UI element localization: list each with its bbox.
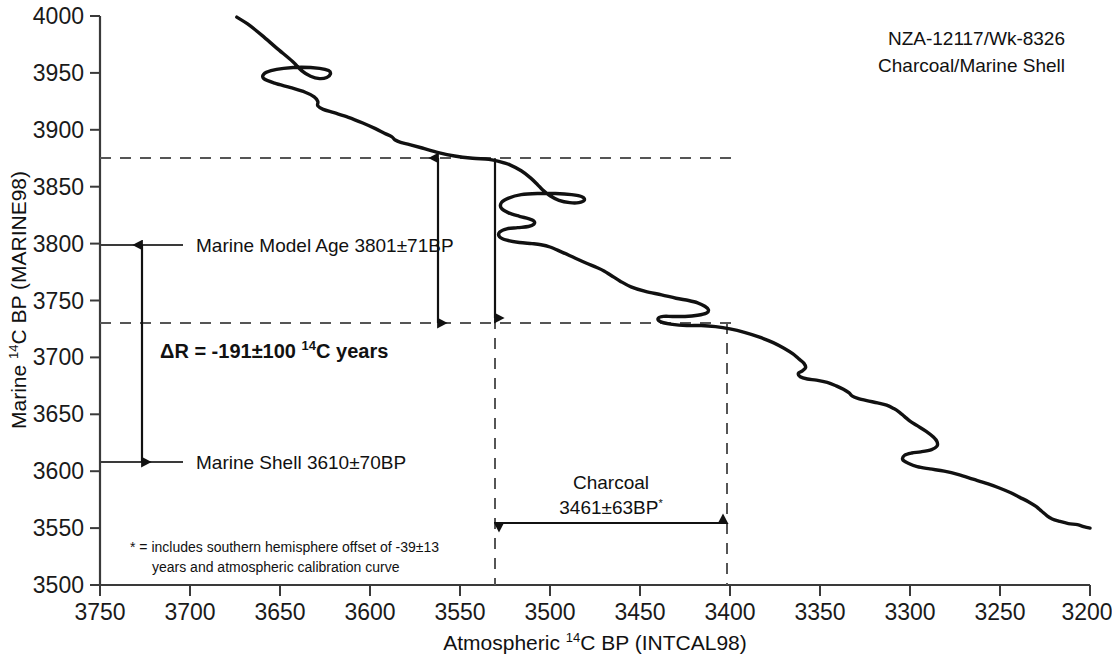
x-tick-3300: 3300 <box>884 599 935 625</box>
x-tick-3250: 3250 <box>974 599 1025 625</box>
x-tick-3500: 3500 <box>524 599 575 625</box>
reference-lines <box>100 158 733 585</box>
y-tick-4000: 4000 <box>33 3 84 29</box>
charcoal-value: 3461±63BP* <box>559 497 663 518</box>
y-tick-3800: 3800 <box>33 231 84 257</box>
footnote-line-1: * = includes southern hemisphere offset … <box>130 539 439 555</box>
y-tick-3950: 3950 <box>33 60 84 86</box>
x-tick-3350: 3350 <box>794 599 845 625</box>
x-axis-title: Atmospheric 14C BP (INTCAL98) <box>443 630 747 654</box>
y-tick-3900: 3900 <box>33 117 84 143</box>
x-tick-3600: 3600 <box>344 599 395 625</box>
marine-model-age-label: Marine Model Age 3801±71BP <box>196 235 454 256</box>
sample-id-line1: NZA-12117/Wk-8326 <box>888 28 1065 49</box>
x-axis-ticks <box>100 585 1090 596</box>
sample-id-line2: Charcoal/Marine Shell <box>878 55 1065 76</box>
marine-shell-label: Marine Shell 3610±70BP <box>196 452 406 473</box>
delta-r-label: ΔR = -191±100 14C years <box>160 338 388 362</box>
x-tick-3400: 3400 <box>704 599 755 625</box>
y-tick-3500: 3500 <box>33 572 84 598</box>
y-tick-3750: 3750 <box>33 288 84 314</box>
y-tick-3850: 3850 <box>33 174 84 200</box>
y-axis-title: Marine 14C BP (MARINE98) <box>6 171 30 429</box>
footnote-line-2: years and atmospheric calibration curve <box>152 559 400 575</box>
sample-id-header: NZA-12117/Wk-8326 Charcoal/Marine Shell <box>878 28 1065 76</box>
footnote: * = includes southern hemisphere offset … <box>130 539 439 575</box>
x-tick-3450: 3450 <box>614 599 665 625</box>
x-tick-3200: 3200 <box>1061 599 1112 625</box>
x-tick-3650: 3650 <box>254 599 305 625</box>
charcoal-annotation: Charcoal 3461±63BP* <box>559 472 663 518</box>
x-axis-tick-labels: 3750 3700 3650 3600 3550 3500 3450 3400 … <box>74 599 1112 625</box>
y-tick-3650: 3650 <box>33 401 84 427</box>
x-tick-3700: 3700 <box>164 599 215 625</box>
y-tick-3700: 3700 <box>33 344 84 370</box>
y-tick-3550: 3550 <box>33 515 84 541</box>
x-tick-3750: 3750 <box>74 599 125 625</box>
y-axis-tick-labels: 4000 3950 3900 3850 3800 3750 3700 3650 … <box>33 3 84 598</box>
x-tick-3550: 3550 <box>434 599 485 625</box>
chart-figure: 4000 3950 3900 3850 3800 3750 3700 3650 … <box>0 0 1112 659</box>
y-axis-ticks <box>90 16 100 585</box>
y-tick-3600: 3600 <box>33 458 84 484</box>
calibration-curve-chart: 4000 3950 3900 3850 3800 3750 3700 3650 … <box>0 0 1112 659</box>
charcoal-label: Charcoal <box>573 472 649 493</box>
